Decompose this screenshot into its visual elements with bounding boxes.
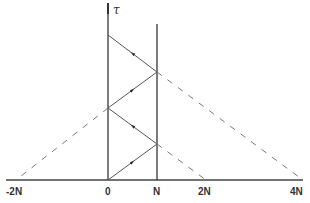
dashed-line-to-4n xyxy=(157,72,303,180)
label-zero: 0 xyxy=(105,186,111,197)
dashed-line-to-2n xyxy=(157,144,206,180)
zigzag-path xyxy=(108,35,157,180)
label-4n: 4N xyxy=(290,186,303,197)
tau-label: τ xyxy=(113,3,120,17)
diagram-canvas: τ -2N 0 N 2N 4N xyxy=(0,0,310,203)
label-neg-2n: -2N xyxy=(6,186,22,197)
dashed-extensions xyxy=(16,72,303,180)
label-n: N xyxy=(153,186,160,197)
dashed-line-to-neg2n xyxy=(16,108,108,180)
label-2n: 2N xyxy=(198,186,211,197)
